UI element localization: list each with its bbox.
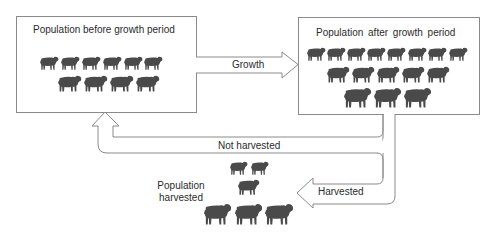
sheep-icon xyxy=(204,204,231,224)
sheep-icon xyxy=(235,204,262,224)
sheep-group-harvested xyxy=(204,162,293,225)
after-box-title: Population after growth period xyxy=(316,27,455,39)
population-harvested-line2: harvested xyxy=(152,192,210,204)
before-box-title: Population before growth period xyxy=(33,24,175,36)
sheep-icon xyxy=(238,180,259,195)
growth-label: Growth xyxy=(232,59,264,71)
sheep-icon xyxy=(251,162,268,175)
sheep-icon xyxy=(230,162,247,175)
population-harvested-label: Population harvested xyxy=(152,180,210,204)
population-harvested-line1: Population xyxy=(152,180,210,192)
not-harvested-label: Not harvested xyxy=(218,140,280,152)
sheep-icon xyxy=(265,204,293,224)
harvested-label: Harvested xyxy=(318,186,364,198)
